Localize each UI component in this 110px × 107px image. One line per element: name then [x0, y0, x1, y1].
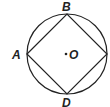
geometry-diagram: B A O D [0, 0, 110, 107]
label-a: A [11, 48, 21, 62]
label-o: O [69, 48, 79, 62]
label-b: B [62, 0, 71, 14]
center-point [65, 53, 68, 56]
label-d: D [62, 96, 71, 107]
diagram-canvas: B A O D [0, 0, 110, 107]
